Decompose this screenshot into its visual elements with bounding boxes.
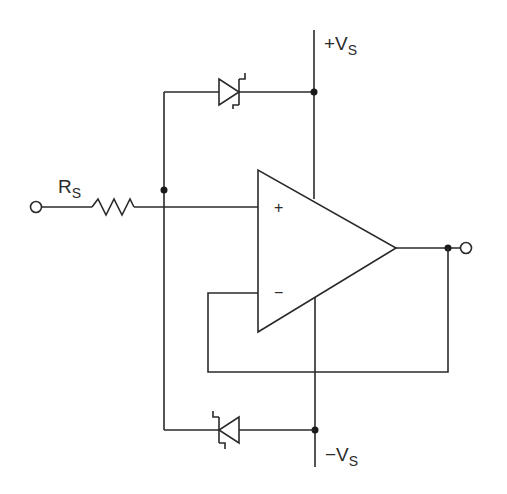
zener-diode-top-tick-upper [239,73,245,79]
output-terminal [461,243,472,254]
circuit-diagram: RS +VS + − −VS [0,0,507,494]
zener-diode-bottom-tick-upper [213,411,219,417]
junction-dot [161,187,168,194]
neg-supply-label: −VS [325,444,358,469]
minus-input-sign: − [274,284,283,301]
zener-diode-bottom-tick-lower [219,443,225,449]
junction-dot [311,89,318,96]
resistor-label: RS [58,176,81,201]
pos-supply-label: +VS [324,33,357,58]
op-amp [258,170,396,332]
resistor-rs [92,199,134,215]
input-terminal [31,202,42,213]
feedback-wire [208,248,448,372]
plus-input-sign: + [274,199,283,216]
zener-diode-top [219,79,239,105]
zener-diode-bottom [219,417,239,443]
zener-diode-top-tick-lower [233,105,239,109]
